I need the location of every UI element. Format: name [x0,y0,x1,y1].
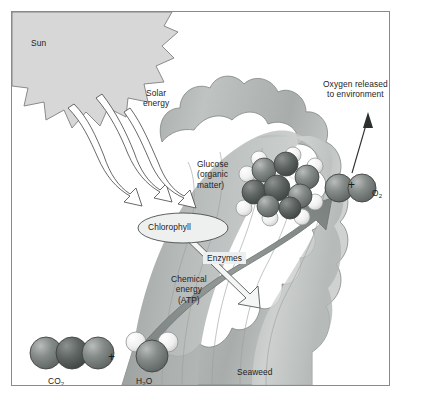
h2o-tail: O [146,376,153,386]
o2-sub: 2 [379,193,382,199]
label-plus-bottom: + [108,352,115,362]
diagram-frame: Sun Solar energy Glucose (organic matter… [11,11,390,386]
label-enzymes: Enzymes [203,252,246,264]
co2-main: CO [48,376,61,386]
label-oxygen-formula: O2 [372,188,382,201]
co2-sub: 2 [61,381,64,387]
diagram-canvas: Sun Solar energy Glucose (organic matter… [12,12,389,385]
label-sun: Sun [31,38,46,48]
label-chemical-energy: Chemical energy (ATP) [171,274,207,305]
label-glucose: Glucose (organic matter) [197,159,228,190]
o2-main: O [372,188,379,198]
label-plus-right: + [348,180,355,190]
label-oxygen-released: Oxygen released to environment [323,79,388,100]
label-carbon-dioxide-formula: CO2 [48,376,64,386]
carbon-dioxide-molecule [30,337,114,369]
oxygen-release-arrow [352,112,373,173]
label-water-formula: H2O [136,376,152,386]
sun-shape [12,12,178,128]
label-solar-energy: Solar energy [143,88,169,109]
diagram-graphics [12,12,389,385]
label-seaweed: Seaweed [237,367,273,377]
label-chlorophyll: Chlorophyll [148,222,191,232]
